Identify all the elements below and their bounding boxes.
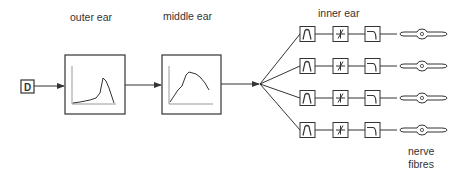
fan-out-lines — [260, 34, 300, 130]
diagram-graphics: D — [0, 0, 465, 183]
svg-text:D: D — [24, 82, 31, 93]
channel-4 — [300, 123, 447, 138]
auditory-model-diagram: outer ear middle ear inner ear nerve fib… — [0, 0, 465, 183]
middle-ear-box — [162, 55, 221, 114]
sound-source-icon: D — [21, 80, 34, 93]
outer-ear-box — [65, 55, 125, 114]
channel-2 — [300, 59, 447, 74]
channel-1 — [300, 27, 447, 42]
channel-3 — [300, 91, 447, 106]
